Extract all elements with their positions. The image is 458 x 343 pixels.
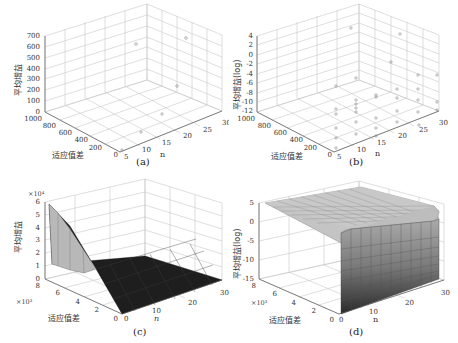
z-tick: -12 [242,107,253,115]
z-tick: 1 [36,262,40,270]
y-tick: 20 [405,299,414,307]
x-axis-label: 适应值差 [48,312,80,323]
z-tick: 700 [27,32,40,40]
x-tick: 1000 [237,115,255,123]
chart-panel-a: 700 600 500 400 300 200 100 0 1000 800 6… [0,0,229,171]
z-axis-label: 平均增益 [12,64,23,96]
x-tick: 400 [75,136,88,144]
x-tick: 4 [292,299,297,307]
chart-a-plot: 700 600 500 400 300 200 100 0 1000 800 6… [0,0,229,171]
chart-panel-c: 6 5 4 3 2 1 0 8 6 4 2 0 0 10 20 30 ×10⁴ … [0,171,229,342]
chart-panel-b: 4 2 0 -2 -4 -6 -8 -10 -12 1000 800 600 4… [229,0,458,171]
y-tick: 25 [419,126,428,134]
z-axis-label: 平均增益 [12,221,23,253]
y-tick: 30 [222,119,229,127]
x-tick: 400 [290,136,303,144]
z-tick: 600 [27,43,40,51]
x-tick: 200 [89,144,102,152]
subplot-caption: (b) [349,156,363,167]
x-axis-label: 适应值差 [269,314,301,325]
x-tick: 6 [56,289,61,297]
x-tick: 8 [36,282,40,290]
x-tick: 6 [273,290,278,298]
x-tick: 600 [59,129,72,137]
z-tick: 4 [249,32,254,40]
z-tick: 300 [27,75,40,83]
z-tick: 2 [36,249,40,257]
y-tick: 5 [337,153,341,161]
y-tick: 0 [339,316,343,324]
x-tick: 1000 [24,115,42,123]
z-tick: 2 [249,41,253,49]
x-multiplier: ×10³ [251,299,267,307]
z-tick: 400 [27,65,40,73]
x-tick: 8 [252,282,256,290]
x-tick: 4 [76,298,81,306]
chart-d-plot: 5 0 -5 -10 -15 8 6 4 2 0 0 10 20 30 [229,171,458,342]
z-axis-label: 平均增益(log) [231,60,242,110]
z-tick: 0 [249,51,253,59]
z-tick: 4 [36,224,41,232]
y-tick: 0 [124,315,128,323]
z-tick: 0 [250,218,254,226]
z-tick: 5 [36,211,40,219]
chart-panel-d: 5 0 -5 -10 -15 8 6 4 2 0 0 10 20 30 ×10³… [229,171,458,342]
x-axis-label: 适应值差 [52,149,84,160]
chart-b-plot: 4 2 0 -2 -4 -6 -8 -10 -12 1000 800 600 4… [229,0,458,171]
z-multiplier: ×10⁴ [28,190,44,198]
x-tick: 0 [114,315,118,323]
y-tick: 30 [220,289,229,297]
x-tick: 0 [330,316,334,324]
y-axis-label: n [154,314,159,323]
y-tick: 15 [162,139,171,147]
z-tick: -6 [246,79,253,87]
x-tick: 0 [328,151,332,159]
z-tick: 200 [27,86,40,94]
y-tick: 10 [357,146,366,154]
x-tick: 800 [43,122,56,130]
y-tick: 5 [124,153,128,161]
y-tick: 20 [398,132,407,140]
y-axis-label: n [373,315,378,324]
z-tick: 5 [250,199,254,207]
subplot-caption: (c) [133,326,146,337]
y-axis-label: n [375,149,380,158]
z-tick: 6 [36,198,41,206]
x-tick: 0 [114,151,118,159]
x-multiplier: ×10³ [16,298,32,306]
x-tick: 800 [258,122,271,130]
z-tick: -10 [242,98,253,106]
x-tick: 200 [304,144,317,152]
y-tick: 20 [183,132,192,140]
y-tick: 30 [441,289,450,297]
subplot-caption: (a) [136,156,150,167]
x-tick: 2 [95,306,99,314]
y-axis-label: n [160,150,165,159]
x-tick: 600 [274,129,287,137]
y-tick: 15 [377,139,386,147]
z-tick: 100 [27,97,40,105]
z-tick: -8 [246,89,253,97]
z-tick: 3 [36,236,40,244]
y-tick: 30 [439,119,448,127]
y-tick: 10 [142,146,151,154]
z-tick: 500 [27,54,40,62]
z-tick: -2 [246,60,253,68]
z-tick: -4 [246,70,253,78]
z-tick: -10 [243,256,254,264]
z-axis-label: 平均增益(log) [231,229,242,279]
x-axis-label: 适应值差 [271,150,303,161]
y-tick: 25 [203,126,212,134]
z-tick: -5 [247,237,254,245]
subplot-caption: (d) [349,326,363,337]
y-tick: 20 [188,299,197,307]
x-tick: 2 [312,307,316,315]
